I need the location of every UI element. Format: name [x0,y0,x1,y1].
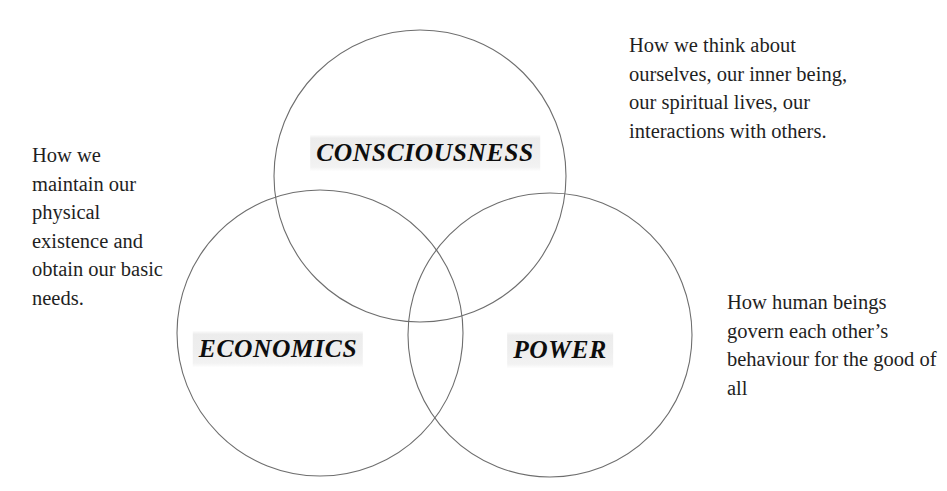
description-economics: How we maintain our physical existence a… [32,141,164,312]
description-consciousness: How we think about ourselves, our inner … [629,31,874,145]
circle-label-consciousness: CONSCIOUSNESS [310,135,540,172]
description-power: How human beings govern each other’s beh… [727,288,942,402]
circle-label-economics: ECONOMICS [193,331,363,368]
circle-label-power: POWER [507,332,613,369]
venn-diagram-page: CONSCIOUSNESS ECONOMICS POWER How we mai… [0,0,947,491]
